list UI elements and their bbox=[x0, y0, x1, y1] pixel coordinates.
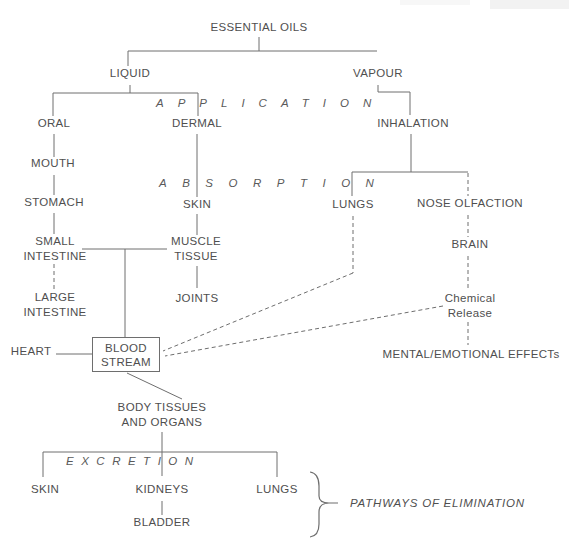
node-heart: HEART bbox=[11, 344, 52, 359]
node-chemical-release: Chemical Release bbox=[445, 291, 496, 321]
stage-application: APPLICATION bbox=[156, 96, 385, 110]
connector-lines bbox=[0, 0, 569, 553]
node-bladder: BLADDER bbox=[134, 515, 191, 530]
node-dermal: DERMAL bbox=[172, 116, 222, 131]
elimination-bracket bbox=[310, 472, 338, 537]
essential-oils-pathway-diagram: ESSENTIAL OILS LIQUID VAPOUR APPLICATION… bbox=[0, 0, 569, 553]
node-vapour: VAPOUR bbox=[353, 66, 403, 81]
node-muscle-tissue: MUSCLE TISSUE bbox=[171, 234, 221, 264]
node-nose-olfaction: NOSE OLFACTION bbox=[417, 196, 523, 211]
node-blood-stream: BLOOD STREAM bbox=[92, 337, 160, 372]
node-brain: BRAIN bbox=[452, 237, 489, 252]
pathways-of-elimination-label: PATHWAYS OF ELIMINATION bbox=[350, 497, 525, 509]
node-large-intestine: LARGE INTESTINE bbox=[23, 290, 86, 320]
node-kidneys: KIDNEYS bbox=[136, 482, 189, 497]
node-mental-emotional-effects: MENTAL/EMOTIONAL EFFECTs bbox=[382, 347, 559, 362]
node-mouth: MOUTH bbox=[31, 156, 75, 171]
dashed-connectors bbox=[54, 173, 468, 356]
node-inhalation: INHALATION bbox=[377, 116, 449, 131]
node-skin-excretion: SKIN bbox=[31, 482, 59, 497]
node-lungs-excretion: LUNGS bbox=[256, 482, 297, 497]
stage-excretion: EXCRETION bbox=[66, 454, 201, 468]
node-joints: JOINTS bbox=[176, 291, 219, 306]
stage-absorption: ABSORPTION bbox=[159, 176, 389, 190]
node-body-tissues-and-organs: BODY TISSUES AND ORGANS bbox=[118, 400, 207, 430]
node-essential-oils: ESSENTIAL OILS bbox=[210, 20, 307, 35]
node-oral: ORAL bbox=[38, 116, 71, 131]
node-skin: SKIN bbox=[183, 197, 211, 212]
node-lungs: LUNGS bbox=[332, 197, 373, 212]
node-liquid: LIQUID bbox=[110, 66, 150, 81]
node-stomach: STOMACH bbox=[24, 195, 84, 210]
node-small-intestine: SMALL INTESTINE bbox=[23, 234, 86, 264]
